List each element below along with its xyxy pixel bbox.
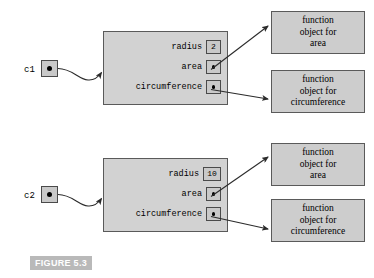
function-box-line: function	[302, 74, 334, 86]
attribute-row-circumference: circumference	[103, 80, 221, 94]
variable-label-c1: c1	[24, 66, 35, 75]
attribute-pointer-area	[206, 187, 221, 201]
attribute-row-area: area	[103, 187, 221, 201]
pointer-dot	[212, 192, 215, 195]
attribute-name-radius: radius	[171, 43, 206, 52]
figure-diagram: c1 radius 2 area circumference function …	[0, 0, 374, 278]
attribute-name-area: area	[182, 63, 206, 72]
attribute-pointer-circumference	[206, 80, 221, 94]
arrow-c1-to-object	[58, 69, 102, 81]
function-box-line: object for	[300, 215, 337, 227]
function-box-line: circumference	[291, 97, 345, 109]
attribute-name-radius: radius	[168, 170, 203, 179]
function-object-box-area-c2: function object for area	[271, 143, 365, 186]
attribute-name-circumference: circumference	[136, 83, 206, 92]
attribute-pointer-area	[206, 60, 221, 74]
function-box-line: area	[310, 170, 326, 182]
attribute-row-area: area	[103, 60, 221, 74]
function-box-line: object for	[300, 159, 337, 171]
pointer-dot	[212, 65, 215, 68]
function-box-line: object for	[300, 86, 337, 98]
function-object-box-area-c1: function object for area	[271, 11, 365, 54]
attribute-row-radius: radius 10	[103, 167, 221, 181]
pointer-dot	[47, 66, 52, 71]
attribute-name-area: area	[182, 190, 206, 199]
figure-caption-banner: FIGURE 5.3	[30, 256, 92, 270]
function-object-box-circumference-c2: function object for circumference	[271, 199, 365, 242]
attribute-pointer-circumference	[206, 207, 221, 221]
pointer-dot	[212, 212, 215, 215]
arrow-c2-to-object	[58, 195, 102, 207]
variable-cell-c1	[41, 60, 58, 77]
function-box-line: function	[302, 203, 334, 215]
function-box-line: function	[302, 15, 334, 27]
function-box-line: object for	[300, 27, 337, 39]
attribute-name-circumference: circumference	[136, 210, 206, 219]
object-box-c2: radius 10 area circumference	[103, 158, 228, 232]
function-box-line: circumference	[291, 226, 345, 238]
pointer-dot	[47, 192, 52, 197]
function-object-box-circumference-c1: function object for circumference	[271, 70, 365, 113]
variable-label-c2: c2	[24, 192, 35, 201]
attribute-value-radius: 2	[206, 40, 221, 54]
attribute-row-circumference: circumference	[103, 207, 221, 221]
function-box-line: area	[310, 38, 326, 50]
attribute-value-radius: 10	[203, 167, 221, 181]
attribute-row-radius: radius 2	[103, 40, 221, 54]
object-box-c1: radius 2 area circumference	[103, 31, 228, 105]
pointer-dot	[212, 85, 215, 88]
variable-cell-c2	[41, 186, 58, 203]
function-box-line: function	[302, 147, 334, 159]
